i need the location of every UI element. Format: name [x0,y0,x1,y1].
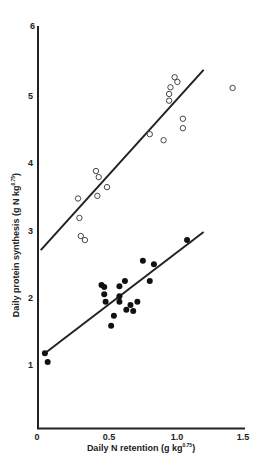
filled-circle-marker [103,299,109,305]
series-open-circles [41,70,236,250]
filled-circle-marker [123,307,129,313]
x-tick-label: 1.0 [171,432,184,442]
x-tick-label: 0.5 [103,432,116,442]
filled-circle-marker [101,284,107,290]
filled-circle-marker [116,293,122,299]
filled-circle-marker [122,278,128,284]
regression-line [41,70,204,250]
y-tick-label: 4 [28,158,33,168]
filled-circle-marker [184,237,190,243]
open-circle-marker [161,138,166,143]
filled-circle-marker [151,261,157,267]
open-circle-marker [180,116,185,121]
filled-circle-marker [101,291,107,297]
filled-circle-marker [130,308,136,314]
x-tick-label: 0 [34,432,39,442]
filled-circle-marker [140,258,146,264]
open-circle-marker [175,79,180,84]
filled-circle-marker [134,299,140,305]
open-circle-marker [77,215,82,220]
plot-area [41,70,236,365]
y-tick-label: 3 [28,226,33,236]
y-tick-labels: 1 2 3 4 5 6 [28,21,35,370]
y-axis-label: Daily protein synthesis (g N kg0.75) [10,173,21,317]
open-circle-marker [82,237,87,242]
regression-line [45,232,204,353]
x-axis-label: Daily N retention (g kg0.75) [87,442,195,453]
open-circle-marker [166,98,171,103]
scatter-chart: 1 2 3 4 5 6 0 0.5 1.0 1.5 Daily N retent… [0,0,260,468]
filled-circle-marker [45,359,51,365]
y-tick-label: 1 [28,360,33,370]
y-tick-label: 5 [28,91,33,101]
open-circle-marker [230,85,235,90]
filled-circle-marker [147,278,153,284]
x-axis-label-close: ) [192,443,195,453]
open-circle-marker [96,174,101,179]
filled-circle-marker [116,283,122,289]
y-tick-label: 6 [30,21,35,31]
filled-circle-marker [108,323,114,329]
x-tick-label: 1.5 [237,432,250,442]
open-circle-marker [75,196,80,201]
y-axis-label-sup: 0.75 [10,176,16,186]
x-tick-labels: 0 0.5 1.0 1.5 [34,432,249,442]
filled-circle-marker [42,350,48,356]
filled-circle-marker [116,299,122,305]
filled-circle-marker [127,302,133,308]
open-circle-marker [180,125,185,130]
y-axis-label-close: ) [11,173,21,176]
y-tick-label: 2 [28,293,33,303]
series-filled-circles [42,232,204,365]
open-circle-marker [168,85,173,90]
y-axis-label-main: Daily protein synthesis (g N kg [11,186,21,318]
open-circle-marker [104,184,109,189]
open-circle-marker [147,131,152,136]
open-circle-marker [166,91,171,96]
x-axis-label-sup: 0.75 [182,442,192,448]
open-circle-marker [95,193,100,198]
x-axis-label-main: Daily N retention (g kg [87,443,183,453]
open-circle-marker [93,168,98,173]
filled-circle-marker [111,313,117,319]
